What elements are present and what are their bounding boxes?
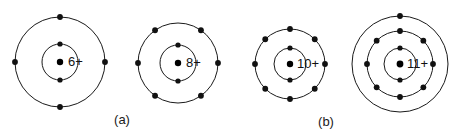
caption-b: (b) — [318, 114, 334, 129]
atom-sodium-inner-shell-electron — [397, 77, 402, 82]
atom-carbon-outer-shell-electron — [57, 104, 63, 110]
atom-sodium-middle-shell-electron — [430, 61, 436, 67]
atom-neon-outer-shell-electron — [262, 86, 268, 92]
atom-sodium-middle-shell-electron — [397, 94, 403, 100]
atom-neon-outer-shell-electron — [287, 26, 293, 32]
atom-carbon-inner-shell-electron — [57, 77, 62, 82]
caption-a: (a) — [114, 112, 130, 127]
atom-oxygen-outer-shell-electron — [215, 60, 221, 66]
atom-oxygen-inner-shell-electron — [175, 78, 180, 83]
atom-carbon: 6+ — [12, 14, 108, 110]
atom-sodium-outer-shell-electron — [397, 13, 403, 19]
atom-carbon-nucleus-charge-label: 6+ — [68, 54, 83, 69]
atom-carbon-inner-shell-electron — [57, 41, 62, 46]
atom-sodium-middle-shell-electron — [374, 84, 380, 90]
atom-oxygen-outer-shell-electron — [198, 93, 204, 99]
atom-neon-outer-shell-electron — [312, 36, 318, 42]
diagram-canvas: 6+8+10+11+(a)(b) — [0, 0, 459, 137]
atom-carbon-outer-shell-electron — [102, 59, 108, 65]
atom-sodium-middle-shell-electron — [364, 61, 370, 67]
atom-neon-outer-shell-electron — [322, 61, 328, 67]
atom-oxygen-outer-shell-electron — [198, 27, 204, 33]
atom-neon-outer-shell-electron — [262, 36, 268, 42]
atom-neon-outer-shell-electron — [287, 96, 293, 102]
atom-sodium-middle-shell-electron — [420, 84, 426, 90]
atom-oxygen-nucleus-dot — [175, 60, 181, 66]
atom-sodium-middle-shell-electron — [397, 28, 403, 34]
atomic-structure-figure: 6+8+10+11+(a)(b) — [0, 0, 459, 137]
atom-oxygen-inner-shell-electron — [175, 42, 180, 47]
atom-neon-nucleus-dot — [287, 61, 293, 67]
atom-carbon-nucleus-dot — [57, 59, 63, 65]
atom-sodium-middle-shell-electron — [420, 38, 426, 44]
atom-neon-nucleus-charge-label: 10+ — [297, 56, 319, 71]
atom-oxygen-outer-shell-electron — [135, 60, 141, 66]
atom-neon-outer-shell-electron — [252, 61, 258, 67]
atom-oxygen-outer-shell-electron — [152, 93, 158, 99]
atom-sodium-nucleus-charge-label: 11+ — [407, 56, 428, 71]
atom-sodium: 11+ — [352, 13, 448, 112]
atom-oxygen-nucleus-charge-label: 8+ — [186, 55, 201, 70]
atom-neon-inner-shell-electron — [287, 45, 292, 50]
atom-neon-inner-shell-electron — [287, 77, 292, 82]
atom-oxygen-outer-shell-electron — [152, 27, 158, 33]
atom-sodium-inner-shell-electron — [397, 45, 402, 50]
atom-carbon-outer-shell-electron — [57, 14, 63, 20]
atom-carbon-outer-shell-electron — [12, 59, 18, 65]
atom-neon-outer-shell-electron — [312, 86, 318, 92]
atom-neon: 10+ — [252, 26, 328, 102]
atom-sodium-nucleus-dot — [397, 61, 404, 68]
atom-sodium-middle-shell-electron — [374, 38, 380, 44]
atom-oxygen: 8+ — [135, 23, 221, 103]
